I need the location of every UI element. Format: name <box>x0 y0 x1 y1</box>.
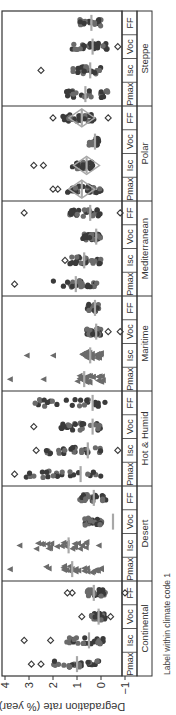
param-label: Isc <box>125 64 135 76</box>
param-label: FF <box>125 302 135 313</box>
param-label: Voc <box>125 134 135 150</box>
data-point <box>90 331 95 336</box>
param-label: Voc <box>125 514 135 530</box>
data-point <box>82 635 87 640</box>
data-point <box>96 212 101 217</box>
outlier-point <box>28 661 34 667</box>
data-group <box>80 229 103 245</box>
data-point <box>78 427 83 432</box>
climate-label: Desert <box>139 519 150 547</box>
data-point <box>61 424 66 429</box>
data-point <box>102 400 107 405</box>
data-group <box>84 324 123 340</box>
data-point <box>71 42 76 47</box>
outlier-point <box>16 542 22 548</box>
climate-label: Continental <box>139 604 150 652</box>
data-point <box>67 423 72 428</box>
data-point <box>77 278 82 283</box>
data-point <box>83 496 88 501</box>
data-point <box>67 469 72 474</box>
param-label: Pmax <box>125 462 135 486</box>
data-group <box>12 466 104 482</box>
outlier-point <box>24 352 30 358</box>
data-point <box>82 69 87 74</box>
data-group <box>7 371 106 387</box>
climate-label: Steppe <box>139 43 150 73</box>
plot-frame <box>2 11 122 676</box>
data-point <box>105 90 110 95</box>
param-label: Voc <box>125 229 135 245</box>
param-label: FF <box>125 207 135 218</box>
data-point <box>68 210 73 215</box>
data-group <box>16 537 101 553</box>
data-group <box>33 395 108 411</box>
data-point <box>96 423 101 428</box>
data-point <box>61 663 66 668</box>
data-group <box>31 156 100 174</box>
data-point <box>42 397 47 402</box>
data-point <box>70 66 75 71</box>
data-point <box>51 473 56 478</box>
data-point <box>81 214 86 219</box>
data-point <box>61 284 66 289</box>
data-point <box>94 207 99 212</box>
data-point <box>84 398 89 403</box>
param-label: Isc <box>125 254 135 266</box>
data-point <box>73 422 78 427</box>
data-group <box>38 62 103 78</box>
data-point <box>56 448 61 453</box>
data-point <box>91 470 96 475</box>
y-tick-label: −1 <box>119 682 131 695</box>
param-label: Voc <box>125 324 135 340</box>
outlier-point <box>115 44 121 50</box>
y-tick-label: 2 <box>47 682 59 688</box>
data-point <box>65 190 70 195</box>
data-point <box>92 258 97 263</box>
data-group <box>85 300 101 316</box>
data-point <box>99 89 104 94</box>
data-group <box>64 585 128 601</box>
outlier-point <box>21 210 27 216</box>
param-label: Pmax <box>125 367 135 391</box>
data-point <box>72 637 77 642</box>
data-point <box>97 261 102 266</box>
param-label: FF <box>125 492 135 503</box>
data-point <box>85 472 90 477</box>
data-point <box>83 233 88 238</box>
category-labels: ContinentalPmaxIscVocFFDesertPmaxIscVocF… <box>122 11 152 676</box>
outlier-point <box>105 115 111 121</box>
data-point <box>93 445 98 450</box>
outlier-point <box>40 162 46 168</box>
data-point <box>95 45 100 50</box>
data-point <box>27 471 32 476</box>
y-tick-label: 1 <box>71 682 83 688</box>
data-point <box>70 427 75 432</box>
data-point <box>82 402 87 407</box>
data-point <box>86 302 91 307</box>
data-group <box>79 609 114 625</box>
data-point <box>78 398 83 403</box>
data-point <box>64 89 69 94</box>
outlier-point <box>96 542 102 548</box>
data-point <box>75 47 80 52</box>
data-group <box>62 252 103 268</box>
data-point <box>70 403 75 408</box>
data-point <box>98 448 103 453</box>
data-group <box>21 632 106 648</box>
data-group <box>33 442 121 458</box>
data-point <box>64 398 69 403</box>
y-tick-label: 0 <box>95 682 107 688</box>
data-point <box>65 280 70 285</box>
data-group <box>7 561 104 577</box>
outlier-point <box>105 329 111 335</box>
y-tick-label: 3 <box>23 682 35 688</box>
data-point <box>48 450 53 455</box>
data-point <box>80 421 85 426</box>
data-point <box>54 543 60 549</box>
data-point <box>77 403 82 408</box>
data-point <box>60 469 65 474</box>
data-point <box>87 235 92 240</box>
outlier-point <box>7 566 13 572</box>
climate-label: Polar <box>139 142 150 164</box>
param-label: FF <box>125 112 135 123</box>
